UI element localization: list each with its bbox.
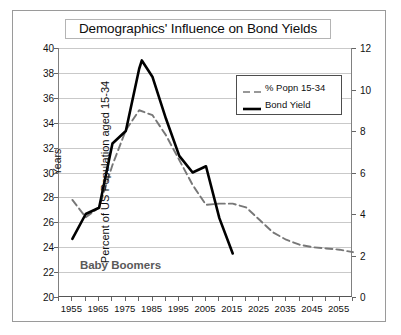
y-axis-right-tick-label: 8 — [360, 126, 384, 137]
y-axis-left-tick-label: 30 — [30, 167, 54, 178]
x-axis-tick-mark — [245, 297, 246, 301]
x-axis-tick-mark — [71, 297, 72, 301]
legend-label-bond: Bond Yield — [265, 99, 310, 110]
x-axis-tick-mark — [205, 297, 206, 301]
x-axis-tick-mark — [111, 297, 112, 301]
y-axis-left-tick-mark — [54, 173, 58, 174]
x-axis-tick-mark — [218, 297, 219, 301]
x-axis-tick-mark — [85, 297, 86, 301]
y-axis-left-tick-label: 28 — [30, 192, 54, 203]
x-axis-tick-mark — [98, 297, 99, 301]
y-axis-left-tick-label: 24 — [30, 242, 54, 253]
y-axis-left-tick-mark — [54, 222, 58, 223]
y-axis-left-tick-label: 38 — [30, 67, 54, 78]
x-axis-tick-mark — [165, 297, 166, 301]
x-axis-tick-mark — [312, 297, 313, 301]
y-axis-right-tick-label: 4 — [360, 209, 384, 220]
legend-swatch-dashed — [242, 83, 262, 93]
legend-label-popn: % Popn 15-34 — [265, 82, 325, 93]
y-axis-right-tick-mark — [352, 131, 356, 132]
y-axis-left-tick-mark — [54, 48, 58, 49]
y-axis-left-tick-mark — [54, 123, 58, 124]
x-axis-tick-mark — [325, 297, 326, 301]
y-axis-left-tick-mark — [54, 73, 58, 74]
y-axis-right-tick-label: 10 — [360, 84, 384, 95]
legend-item-popn: % Popn 15-34 — [237, 79, 341, 96]
y-axis-left-tick-label: 34 — [30, 117, 54, 128]
y-axis-right-tick-mark — [352, 214, 356, 215]
legend-item-bond: Bond Yield — [237, 96, 341, 113]
chart-container: Demographics' Influence on Bond Yields P… — [0, 0, 401, 335]
x-axis-tick-mark — [232, 297, 233, 301]
chart-title: Demographics' Influence on Bond Yields — [65, 19, 331, 39]
x-axis-tick-mark — [178, 297, 179, 301]
x-axis-tick-mark — [299, 297, 300, 301]
x-axis-tick-mark — [352, 297, 353, 301]
x-axis-tick-label: 2055 — [322, 303, 356, 314]
x-axis-tick-mark — [138, 297, 139, 301]
x-axis-tick-mark — [125, 297, 126, 301]
y-axis-right-tick-mark — [352, 90, 356, 91]
y-axis-left-tick-mark — [54, 197, 58, 198]
x-axis-tick-mark — [58, 297, 59, 301]
x-axis-tick-mark — [272, 297, 273, 301]
y-axis-right-tick-label: 6 — [360, 167, 384, 178]
y-axis-left-tick-label: 36 — [30, 92, 54, 103]
y-axis-left-tick-mark — [54, 272, 58, 273]
chart-annotation: Baby Boomers — [80, 259, 161, 271]
x-axis-tick-mark — [152, 297, 153, 301]
y-axis-left-tick-label: 32 — [30, 142, 54, 153]
y-axis-right-tick-label: 12 — [360, 43, 384, 54]
legend-swatch-solid — [242, 100, 262, 110]
y-axis-left-title: Percent of US Population aged 15-34 — [99, 52, 111, 292]
chart-legend: % Popn 15-34 Bond Yield — [236, 75, 342, 115]
y-axis-left-tick-label: 22 — [30, 267, 54, 278]
y-axis-left-tick-mark — [54, 148, 58, 149]
y-axis-right-tick-mark — [352, 173, 356, 174]
y-axis-left-tick-mark — [54, 98, 58, 99]
series-line-bond-yield — [72, 60, 232, 253]
y-axis-left-tick-label: 20 — [30, 292, 54, 303]
y-axis-right-tick-mark — [352, 48, 356, 49]
y-axis-right-tick-mark — [352, 256, 356, 257]
x-axis-tick-mark — [285, 297, 286, 301]
x-axis-tick-mark — [339, 297, 340, 301]
series-line-popn-15-34 — [72, 110, 353, 252]
y-axis-right-tick-label: 2 — [360, 250, 384, 261]
y-axis-left-tick-label: 40 — [30, 43, 54, 54]
x-axis-tick-mark — [258, 297, 259, 301]
y-axis-left-tick-label: 26 — [30, 217, 54, 228]
y-axis-right-tick-label: 0 — [360, 292, 384, 303]
x-axis-tick-mark — [192, 297, 193, 301]
y-axis-left-tick-mark — [54, 247, 58, 248]
